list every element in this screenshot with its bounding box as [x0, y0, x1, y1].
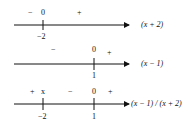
tick-label: 1 — [92, 72, 96, 80]
zero-marker: 0 — [41, 9, 45, 17]
zero-marker: 0 — [92, 88, 96, 96]
zero-marker: 0 — [92, 46, 96, 54]
tick-label: −2 — [37, 33, 46, 41]
expression-label: (x − 1) / (x + 2) — [131, 100, 182, 108]
sign-positive: + — [30, 88, 35, 96]
sign-positive: + — [107, 49, 112, 57]
sign-negative: − — [28, 9, 33, 17]
expression-label: (x + 2) — [141, 21, 163, 29]
tick-label: −2 — [38, 113, 47, 121]
sign-positive: + — [77, 9, 82, 17]
tick-label: 1 — [92, 113, 96, 121]
sign-negative: − — [51, 46, 56, 54]
sign-positive: + — [108, 88, 113, 96]
expression-label: (x − 1) — [141, 60, 163, 68]
sign-negative: − — [68, 88, 73, 96]
undefined-marker: x — [41, 88, 45, 96]
